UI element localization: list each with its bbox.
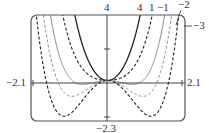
curve-label-4: 4 — [137, 1, 143, 13]
x-max-label: 2.1 — [187, 76, 201, 88]
function-family-chart: 4 −2.3 −2.1 2.1 4 1 −1 −2 −3 — [0, 0, 209, 133]
curve-label-minus2: −2 — [178, 0, 190, 10]
y-max-label: 4 — [104, 1, 110, 13]
curve-label-minus3: −3 — [193, 19, 205, 31]
curve-label-1: 1 — [149, 1, 155, 13]
x-min-label: −2.1 — [6, 76, 26, 88]
curve-label-minus1: −1 — [157, 1, 169, 13]
y-min-label: −2.3 — [96, 122, 116, 133]
curve-label-minus2-leader — [176, 10, 181, 25]
